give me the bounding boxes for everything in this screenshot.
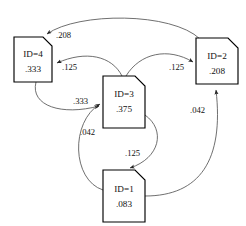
node-1-value: .083 [116,199,132,209]
node-3-label: ID=3 [114,89,134,99]
edge-label-4-3: .333 [73,96,88,106]
edge-1-to-3 [79,104,103,190]
node-4[interactable]: ID=4 .333 [14,37,52,82]
edge-path-4-3 [35,82,99,110]
node-3-value: .375 [116,104,132,114]
graph-canvas: ID=4 .333 ID=2 .208 ID=3 .375 ID=1 .083 [0,0,246,226]
edge-label-2-4: .208 [56,30,71,40]
node-1[interactable]: ID=1 .083 [103,170,145,222]
node-3[interactable]: ID=3 .375 [103,76,145,128]
node-3-shape [103,76,145,128]
edge-label-1-2: .042 [190,105,205,115]
node-2-value: .208 [209,66,225,76]
node-4-label: ID=4 [23,49,43,59]
node-2-shape [196,38,238,84]
edge-label-1-3: .042 [80,127,95,137]
graph-diagram: ID=4 .333 ID=2 .208 ID=3 .375 ID=1 .083 [0,0,246,226]
edge-label-3-4: .125 [62,62,77,72]
node-layer: ID=4 .333 ID=2 .208 ID=3 .375 ID=1 .083 [14,37,238,222]
node-1-label: ID=1 [114,184,134,194]
edge-label-3-2: .125 [169,62,184,72]
edge-path-1-2 [145,90,218,196]
edge-1-to-2 [145,90,218,196]
edge-label-3-1: .125 [125,148,140,158]
edge-4-to-3 [35,82,99,110]
node-2-label: ID=2 [207,51,227,61]
node-4-value: .333 [25,64,41,74]
node-2[interactable]: ID=2 .208 [196,38,238,84]
edge-path-1-3 [79,104,103,190]
node-4-shape [14,37,52,82]
node-1-shape [103,170,145,222]
